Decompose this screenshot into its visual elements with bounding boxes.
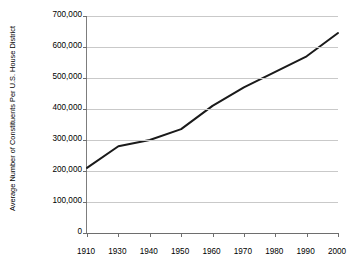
- gridline-horizontal: [87, 202, 338, 203]
- y-axis-tick-mark: [83, 171, 87, 172]
- y-axis-tick-label-column: 0100,000200,000300,000400,000500,000600,…: [18, 0, 82, 274]
- y-axis-tick-label: 200,000: [22, 165, 82, 174]
- y-axis-tick-label: 300,000: [22, 134, 82, 143]
- gridline-horizontal: [87, 109, 338, 110]
- plot-area: [86, 16, 338, 234]
- y-axis-tick-mark: [83, 16, 87, 17]
- y-axis-tick-label: 400,000: [22, 103, 82, 112]
- x-axis-tick-mark: [338, 233, 339, 237]
- x-axis-tick-label-row: 191019301940195019601970198019902000: [0, 247, 356, 263]
- x-axis-tick-mark: [181, 233, 182, 237]
- x-axis-tick-label: 2000: [317, 247, 356, 256]
- y-axis-tick-mark: [83, 202, 87, 203]
- x-axis-tick-mark: [307, 233, 308, 237]
- y-axis-title-wrapper: Average Number of Constituents Per U.S. …: [0, 0, 18, 244]
- x-axis-tick-mark: [244, 233, 245, 237]
- x-axis-tick-mark: [87, 233, 88, 237]
- x-axis-tick-mark: [275, 233, 276, 237]
- y-axis-tick-label: 500,000: [22, 72, 82, 81]
- line-series-path: [87, 33, 338, 168]
- gridline-horizontal: [87, 47, 338, 48]
- line-series-svg: [87, 16, 338, 233]
- x-axis-tick-mark: [213, 233, 214, 237]
- y-axis-tick-label: 700,000: [22, 10, 82, 19]
- y-axis-title: Average Number of Constituents Per U.S. …: [8, 3, 17, 235]
- y-axis-tick-label: 0: [22, 227, 82, 236]
- y-axis-tick-mark: [83, 109, 87, 110]
- y-axis-tick-mark: [83, 140, 87, 141]
- x-axis-tick-mark: [118, 233, 119, 237]
- y-axis-tick-mark: [83, 47, 87, 48]
- gridline-horizontal: [87, 140, 338, 141]
- y-axis-tick-label: 600,000: [22, 41, 82, 50]
- gridline-horizontal: [87, 16, 338, 17]
- gridline-horizontal: [87, 171, 338, 172]
- y-axis-tick-mark: [83, 78, 87, 79]
- x-axis-tick-mark: [150, 233, 151, 237]
- gridline-horizontal: [87, 78, 338, 79]
- y-axis-tick-label: 100,000: [22, 196, 82, 205]
- chart-container: Average Number of Constituents Per U.S. …: [0, 0, 356, 274]
